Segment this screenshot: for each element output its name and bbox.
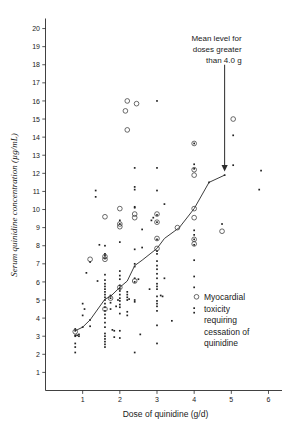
toxicity-point-marker [117, 206, 122, 211]
serum-level-point-marker [104, 274, 106, 276]
legend-label-line: toxicity [204, 304, 231, 314]
serum-level-point-marker [97, 280, 99, 282]
serum-level-point-marker [156, 324, 158, 326]
serum-level-point-marker [119, 270, 121, 272]
toxicity-point-marker [125, 99, 130, 104]
serum-level-point-marker [89, 325, 91, 327]
serum-level-point-marker [193, 286, 195, 288]
serum-level-point-marker [171, 320, 173, 322]
serum-level-point-marker [104, 333, 106, 335]
serum-level-point-marker [134, 301, 136, 303]
serum-level-point-marker [134, 167, 136, 169]
serum-level-point-marker [156, 310, 158, 312]
serum-level-point-marker [152, 217, 154, 219]
serum-level-point-marker [82, 303, 84, 305]
x-axis-tick-label: 5 [229, 396, 233, 403]
serum-level-point-marker [104, 326, 106, 328]
serum-level-point-marker [119, 241, 121, 243]
serum-level-point-marker [151, 220, 153, 222]
serum-level-point-marker [232, 164, 234, 166]
y-axis-tick-label: 1 [36, 369, 40, 376]
serum-level-point-marker [112, 329, 114, 331]
toxicity-point-marker [132, 212, 137, 217]
serum-level-point-marker [193, 239, 195, 241]
serum-level-point-marker [104, 245, 106, 247]
serum-level-point-marker [156, 260, 158, 262]
serum-level-point-marker [156, 286, 158, 288]
serum-level-point-marker [76, 334, 78, 336]
serum-level-point-marker [162, 296, 164, 298]
y-axis-tick-label: 2 [36, 351, 40, 358]
serum-level-point-marker [193, 312, 195, 314]
axes-group: 1234567891011121314151617181920123456 [32, 19, 282, 404]
serum-level-point-marker [134, 186, 136, 188]
serum-level-point-marker [119, 290, 121, 292]
serum-level-point-marker [119, 294, 121, 296]
serum-level-point-marker [260, 170, 262, 172]
legend-label-line: quinidine [204, 338, 238, 348]
serum-level-point-marker [141, 247, 143, 249]
y-axis-tick-label: 15 [32, 116, 40, 123]
serum-level-point-marker [156, 239, 158, 241]
serum-level-point-marker [104, 335, 106, 337]
serum-level-point-marker [156, 343, 158, 345]
serum-level-point-marker [139, 334, 141, 336]
x-axis-title: Dose of quinidine (g/d) [123, 409, 209, 419]
quinidine-scatter-figure: 1234567891011121314151617181920123456 Me… [0, 0, 299, 433]
serum-level-point-marker [193, 244, 195, 246]
serum-level-point-marker [156, 268, 158, 270]
serum-level-point-marker [117, 299, 119, 301]
y-axis-tick-label: 8 [36, 242, 40, 249]
legend-label-line: cessation of [204, 327, 250, 337]
serum-level-point-marker [104, 283, 106, 285]
serum-level-point-marker [74, 352, 76, 354]
serum-level-point-marker [193, 168, 195, 170]
serum-level-point-marker [99, 244, 101, 246]
legend-label-line: Myocardial [204, 292, 245, 302]
y-axis-tick-label: 9 [36, 224, 40, 231]
serum-level-point-marker [134, 352, 136, 354]
serum-level-point-marker [156, 303, 158, 305]
serum-level-point-marker [156, 296, 158, 298]
serum-level-point-marker [119, 337, 121, 339]
y-axis-tick-label: 6 [36, 279, 40, 286]
serum-level-point-marker [126, 311, 128, 313]
serum-level-point-marker [128, 298, 130, 300]
x-axis-tick-label: 2 [118, 396, 122, 403]
serum-level-point-marker [113, 330, 115, 332]
serum-level-point-marker [74, 346, 76, 348]
serum-level-point-marker [104, 303, 106, 305]
toxicity-point-marker [192, 215, 197, 220]
y-axis-tick-label: 12 [32, 170, 40, 177]
x-axis-tick-label: 6 [267, 396, 271, 403]
serum-level-point-marker [104, 346, 106, 348]
serum-level-point-marker [134, 206, 136, 208]
serum-level-point-marker [119, 313, 121, 315]
serum-level-point-marker [126, 315, 128, 317]
serum-level-point-marker [104, 255, 106, 257]
serum-level-point-marker [141, 229, 143, 231]
toxicity-point-marker [88, 257, 93, 262]
serum-level-point-marker [86, 272, 88, 274]
serum-level-point-marker [104, 317, 106, 319]
serum-level-point-marker [156, 283, 158, 285]
serum-level-point-marker [115, 305, 117, 307]
serum-level-point-marker [156, 253, 158, 255]
serum-level-point-marker [156, 300, 158, 302]
serum-level-point-marker [113, 336, 115, 338]
serum-level-point-marker [156, 167, 158, 169]
serum-level-point-marker [110, 297, 112, 299]
serum-level-point-marker [119, 300, 121, 302]
y-axis-tick-label: 5 [36, 297, 40, 304]
serum-level-point-marker [119, 278, 121, 280]
toxicity-point-marker [231, 117, 236, 122]
serum-level-point-marker [104, 296, 106, 298]
serum-level-point-marker [164, 203, 166, 205]
serum-level-point-marker [156, 265, 158, 267]
serum-level-point-marker [193, 259, 195, 261]
serum-level-point-marker [119, 304, 121, 306]
y-axis-tick-label: 7 [36, 260, 40, 267]
serum-level-point-marker [104, 286, 106, 288]
serum-level-point-marker [160, 295, 162, 297]
serum-level-point-marker [104, 344, 106, 346]
